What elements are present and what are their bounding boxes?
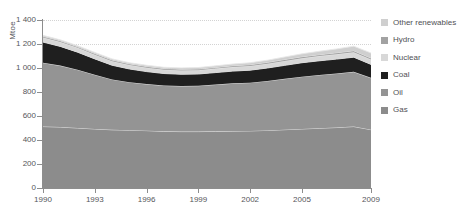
x-axis-tick <box>371 188 372 193</box>
y-axis-tick-label: 1 000 <box>2 63 36 72</box>
y-axis-tick-label: 1 200 <box>2 39 36 48</box>
x-axis-tick-label: 1999 <box>189 195 207 204</box>
legend-label: Other renewables <box>393 19 456 27</box>
legend-swatch-icon <box>381 107 388 114</box>
y-axis-tick-label: 400 <box>2 135 36 144</box>
y-axis-tick-label: 600 <box>2 111 36 120</box>
legend-item[interactable]: Oil <box>381 84 462 102</box>
y-axis-tick-label: 800 <box>2 87 36 96</box>
y-axis-tick-label: 1 400 <box>2 15 36 24</box>
x-axis-tick <box>95 188 96 193</box>
x-axis-tick-label: 1990 <box>34 195 52 204</box>
legend-label: Oil <box>393 89 403 97</box>
y-axis-tick-label: 0 <box>2 183 36 192</box>
x-axis-tick <box>302 188 303 193</box>
legend-swatch-icon <box>381 54 388 61</box>
x-axis-tick-label: 2002 <box>241 195 259 204</box>
x-axis-tick-label: 1993 <box>86 195 104 204</box>
legend-label: Gas <box>393 106 408 114</box>
x-axis-tick-label: 2005 <box>293 195 311 204</box>
legend-item[interactable]: Other renewables <box>381 14 462 32</box>
legend-item[interactable]: Nuclear <box>381 49 462 67</box>
x-axis-tick-label: 1996 <box>138 195 156 204</box>
stacked-area-series <box>43 20 371 188</box>
legend-item[interactable]: Hydro <box>381 32 462 50</box>
legend-label: Hydro <box>393 36 414 44</box>
x-axis-tick <box>43 188 44 193</box>
area-series-gas <box>43 127 371 188</box>
x-axis-line <box>42 188 372 189</box>
chart-figure: Mtoe 02004006008001 0001 2001 400 199019… <box>0 0 462 217</box>
y-axis-tick-label: 200 <box>2 159 36 168</box>
x-axis-tick-label: 2009 <box>362 195 380 204</box>
legend-label: Nuclear <box>393 54 421 62</box>
legend-item[interactable]: Coal <box>381 67 462 85</box>
y-axis-tick-labels: 02004006008001 0001 2001 400 <box>0 0 36 1</box>
legend-item[interactable]: Gas <box>381 102 462 120</box>
x-axis-tick <box>147 188 148 193</box>
x-axis-tick <box>198 188 199 193</box>
legend-swatch-icon <box>381 19 388 26</box>
legend-swatch-icon <box>381 37 388 44</box>
legend-swatch-icon <box>381 72 388 79</box>
x-axis-tick <box>250 188 251 193</box>
plot-area <box>43 20 371 188</box>
legend-label: Coal <box>393 71 409 79</box>
chart-legend: Other renewablesHydroNuclearCoalOilGas <box>381 14 462 119</box>
legend-swatch-icon <box>381 89 388 96</box>
